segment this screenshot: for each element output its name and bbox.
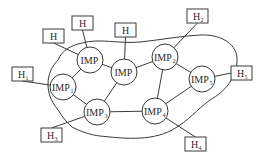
host-box-h-b: H bbox=[72, 16, 93, 30]
host-box-h-a: H bbox=[43, 29, 64, 43]
host-label: H bbox=[79, 18, 86, 29]
host-subscript: 2 bbox=[201, 17, 204, 23]
host-box-h4: H4 bbox=[185, 137, 206, 151]
imp-layer: IMPIMPIMP1IMP2IMP3IMP4IMP5 bbox=[50, 44, 215, 125]
imp-label: IMP bbox=[191, 74, 209, 85]
imp-label: IMP bbox=[52, 82, 70, 93]
imp-node-imp3: IMP3 bbox=[84, 99, 110, 125]
imp-subscript: 2 bbox=[173, 58, 176, 64]
host-subscript: 1 bbox=[26, 75, 29, 81]
imp-subscript: 3 bbox=[105, 113, 108, 119]
imp-node-imp-a: IMP bbox=[77, 47, 103, 73]
host-box-h1: H1 bbox=[12, 67, 33, 81]
host-label: H bbox=[122, 25, 129, 36]
imp-label: IMP bbox=[154, 52, 172, 63]
imp-node-imp-b: IMP bbox=[111, 59, 137, 85]
host-label: H bbox=[191, 139, 198, 150]
imp-subscript: 4 bbox=[163, 112, 166, 118]
host-label: H bbox=[47, 130, 54, 141]
imp-subscript: 1 bbox=[71, 88, 74, 94]
imp-subscript: 5 bbox=[210, 80, 213, 86]
imp-node-imp2: IMP2 bbox=[152, 44, 178, 70]
imp-label: IMP bbox=[115, 67, 133, 78]
host-box-h3: H3 bbox=[41, 128, 62, 142]
host-subscript: 5 bbox=[245, 74, 248, 80]
host-box-h5: H5 bbox=[231, 66, 252, 80]
host-label: H bbox=[18, 69, 25, 80]
host-label: H bbox=[50, 31, 57, 42]
imp-label: IMP bbox=[81, 55, 99, 66]
host-subscript: 4 bbox=[199, 145, 202, 151]
network-diagram: IMPIMPIMP1IMP2IMP3IMP4IMP5 HHHH1H2H3H4H5 bbox=[0, 0, 260, 159]
host-label: H bbox=[193, 11, 200, 22]
host-subscript: 3 bbox=[55, 136, 58, 142]
imp-node-imp5: IMP5 bbox=[189, 66, 215, 92]
host-box-h-c: H bbox=[115, 23, 136, 37]
imp-label: IMP bbox=[86, 107, 104, 118]
host-box-h2: H2 bbox=[187, 9, 208, 23]
host-label: H bbox=[237, 68, 244, 79]
imp-node-imp1: IMP1 bbox=[50, 74, 76, 100]
imp-label: IMP bbox=[144, 106, 162, 117]
imp-node-imp4: IMP4 bbox=[142, 98, 168, 124]
